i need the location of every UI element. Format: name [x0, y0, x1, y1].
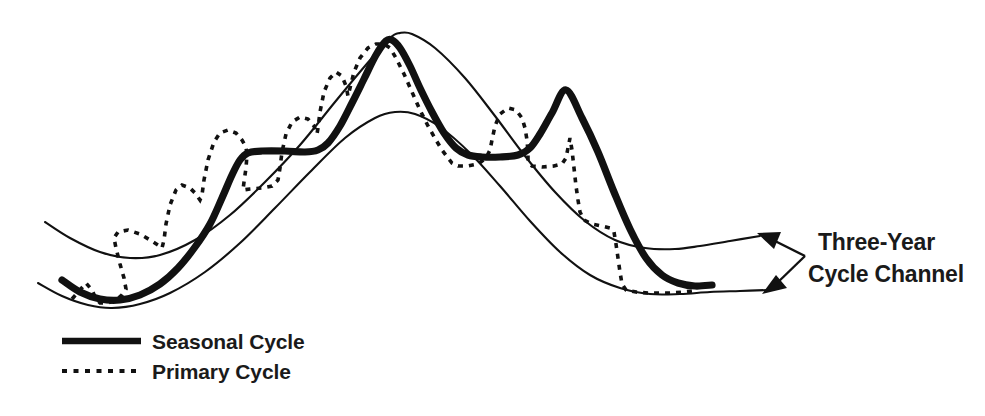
legend-item-primary-cycle: Primary Cycle [62, 360, 291, 383]
annotation-line-2: Cycle Channel [808, 261, 964, 287]
channel-annotation-arrows [757, 232, 805, 294]
legend: Seasonal Cycle Primary Cycle [62, 330, 305, 383]
upper-channel-line [45, 32, 760, 258]
legend-item-seasonal-cycle: Seasonal Cycle [62, 330, 305, 353]
legend-label-primary-cycle: Primary Cycle [152, 360, 291, 383]
lower-channel-line [38, 112, 768, 308]
upper-arrow-head [757, 232, 781, 249]
seasonal-cycle-line [62, 39, 712, 300]
cycle-channel-figure: Three-Year Cycle Channel Seasonal Cycle … [0, 0, 985, 416]
annotation-line-1: Three-Year [818, 229, 935, 255]
legend-label-seasonal-cycle: Seasonal Cycle [152, 330, 305, 353]
primary-cycle-line [72, 44, 692, 303]
